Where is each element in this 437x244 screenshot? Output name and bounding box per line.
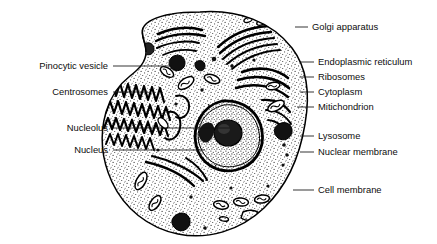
label-cytoplasm: Cytoplasm	[318, 86, 362, 97]
nucleolus-organelle	[214, 120, 242, 146]
lysosome	[274, 123, 292, 140]
label-mitichondrion: Mitichondrion	[318, 101, 374, 112]
lysosome	[172, 213, 190, 231]
cell-diagram: Golgi apparatusEndoplasmic reticulumRibo…	[0, 0, 437, 244]
label-lysosome: Lysosome	[318, 130, 360, 141]
label-nuclear-membrane: Nuclear membrane	[318, 146, 398, 157]
label-golgi-apparatus: Golgi apparatus	[312, 21, 379, 32]
label-cell-membrane: Cell membrane	[318, 184, 382, 195]
label-centrosomes: Centrosomes	[52, 86, 108, 97]
label-ribosomes: Ribosomes	[318, 71, 365, 82]
nucleus-organelle	[195, 101, 262, 171]
right-label-group: Golgi apparatusEndoplasmic reticulumRibo…	[293, 21, 412, 195]
label-nucleus: Nucleus	[74, 144, 108, 155]
label-endoplasmic-reticulum: Endoplasmic reticulum	[318, 56, 412, 67]
lysosome	[195, 61, 205, 71]
label-nucleolus: Nucleolus	[67, 122, 108, 133]
figure-canvas: Golgi apparatusEndoplasmic reticulumRibo…	[0, 0, 437, 244]
mitochondrion	[273, 197, 289, 209]
label-pinocytic-vesicle: Pinocytic vesicle	[39, 60, 108, 71]
lysosome	[141, 43, 154, 55]
lysosome	[169, 55, 185, 70]
